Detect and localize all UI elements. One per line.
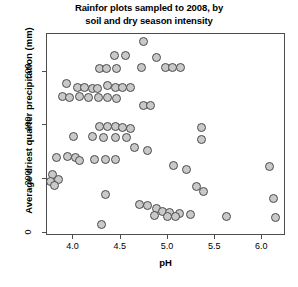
chart-title: Rainfor plots sampled to 2008, by soil a…: [0, 2, 298, 27]
data-point: [88, 132, 97, 141]
plot-area: [46, 33, 285, 235]
data-point: [93, 84, 102, 93]
data-point: [269, 194, 278, 203]
data-point: [101, 155, 110, 164]
data-point: [171, 212, 180, 221]
data-point: [186, 210, 195, 219]
data-point: [52, 153, 61, 162]
data-point: [152, 53, 161, 62]
x-tick-mark: [167, 235, 168, 239]
data-point: [94, 93, 103, 102]
y-tick-mark: [42, 71, 46, 72]
x-tick-label: 5.0: [147, 241, 187, 251]
x-tick-mark: [72, 235, 73, 239]
y-tick-mark: [42, 178, 46, 179]
x-tick-label: 6.0: [241, 241, 281, 251]
data-point: [143, 146, 152, 155]
data-point: [126, 83, 135, 92]
data-point: [97, 220, 106, 229]
y-tick-mark: [42, 232, 46, 233]
data-point: [197, 135, 206, 144]
data-point: [126, 124, 135, 133]
data-point: [130, 143, 139, 152]
data-point: [75, 92, 84, 101]
data-point: [102, 64, 111, 73]
data-point: [50, 181, 59, 190]
data-point: [139, 37, 148, 46]
x-tick-mark: [214, 235, 215, 239]
data-point: [65, 93, 74, 102]
data-point: [103, 93, 112, 102]
x-tick-label: 4.0: [52, 241, 92, 251]
data-point: [121, 51, 130, 60]
data-point: [101, 190, 110, 199]
data-point: [222, 212, 231, 221]
data-point: [122, 133, 131, 142]
scatter-plot-figure: Rainfor plots sampled to 2008, by soil a…: [0, 0, 298, 287]
data-point: [111, 155, 120, 164]
data-point: [99, 133, 108, 142]
data-point: [75, 156, 84, 165]
data-point: [197, 123, 206, 132]
data-point: [176, 63, 185, 72]
x-tick-mark: [120, 235, 121, 239]
data-point: [137, 63, 146, 72]
data-point: [150, 211, 159, 220]
data-point: [90, 155, 99, 164]
data-point: [110, 51, 119, 60]
data-point: [146, 101, 155, 110]
data-point: [143, 201, 152, 210]
data-point: [271, 213, 280, 222]
data-point: [62, 79, 71, 88]
data-point: [112, 94, 121, 103]
data-point: [265, 162, 274, 171]
y-tick-mark: [42, 124, 46, 125]
data-point: [182, 165, 191, 174]
x-tick-mark: [261, 235, 262, 239]
x-axis-title: pH: [46, 257, 285, 268]
data-point: [84, 93, 93, 102]
x-tick-label: 4.5: [100, 241, 140, 251]
data-point: [112, 64, 121, 73]
data-point: [111, 133, 120, 142]
y-axis-title: Average driest quarter precipitation (mm…: [23, 11, 34, 231]
data-point: [169, 161, 178, 170]
data-point: [69, 132, 78, 141]
x-tick-label: 5.5: [194, 241, 234, 251]
data-point: [199, 187, 208, 196]
